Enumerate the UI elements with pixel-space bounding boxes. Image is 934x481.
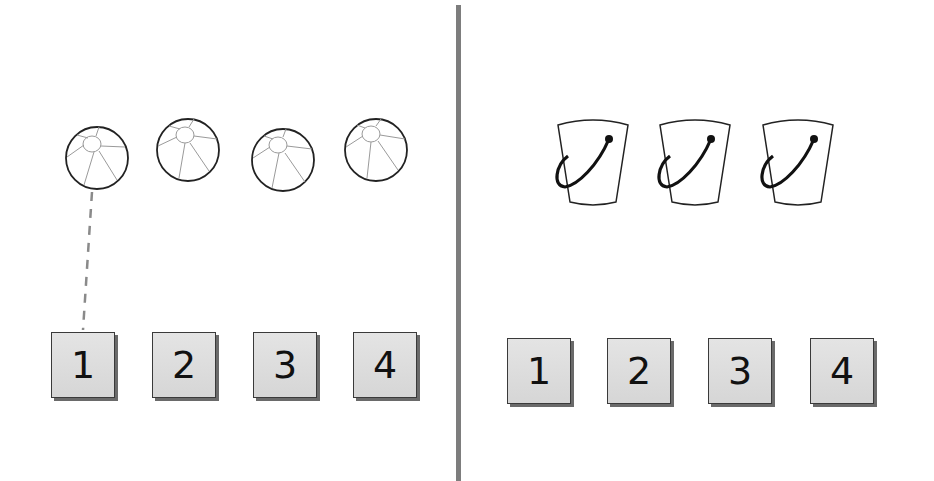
right-exercise-panel: 1 2 3 4	[462, 0, 934, 481]
number-label: 2	[627, 352, 651, 390]
number-box-4[interactable]: 4	[810, 338, 874, 404]
right-artwork	[0, 0, 934, 481]
number-box-2[interactable]: 2	[607, 338, 671, 404]
bucket-icon[interactable]	[659, 120, 730, 205]
number-label: 1	[527, 352, 551, 390]
number-box-1[interactable]: 1	[507, 338, 571, 404]
number-label: 4	[830, 352, 854, 390]
bucket-icon[interactable]	[557, 120, 628, 205]
bucket-icon[interactable]	[762, 120, 833, 205]
number-box-3[interactable]: 3	[708, 338, 772, 404]
number-label: 3	[728, 352, 752, 390]
